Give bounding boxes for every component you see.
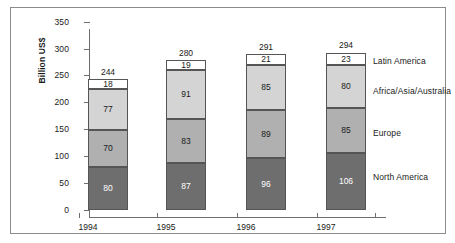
bar-total-1994: 244 <box>78 67 138 77</box>
bar-total-1997: 294 <box>316 40 376 50</box>
legend-label-africa-asia-australia: Africa/Asia/Australia <box>373 86 451 96</box>
y-tick-label-300: 300 <box>29 45 69 54</box>
bar-group-1995[interactable]: 280 19 91 83 87 <box>166 8 206 210</box>
bar-segment-latin-america-1995[interactable]: 19 <box>166 60 206 70</box>
x-tick-2 <box>237 213 238 218</box>
y-tick-label-150: 150 <box>29 125 69 134</box>
bar-segment-latin-america-1997[interactable]: 23 <box>326 53 366 65</box>
x-tick-label-1994: 1994 <box>58 222 118 232</box>
bar-segment-north-america-1996[interactable]: 96 <box>246 158 286 210</box>
x-tick-3 <box>317 213 318 218</box>
y-tick-label-350: 350 <box>29 18 69 27</box>
bar-segment-africa-asia-australia-1994[interactable]: 77 <box>88 89 128 130</box>
stacked-bar-chart-figure: Billion US$ 350 300 250 200 150 100 50 0… <box>0 0 455 243</box>
bar-segment-europe-1996[interactable]: 89 <box>246 110 286 158</box>
x-tick-label-1997: 1997 <box>296 222 356 232</box>
bar-group-1996[interactable]: 291 21 85 89 96 <box>246 8 286 210</box>
bar-segment-africa-asia-australia-1997[interactable]: 80 <box>326 65 366 108</box>
chart-frame: Billion US$ 350 300 250 200 150 100 50 0… <box>10 7 446 234</box>
legend-label-europe: Europe <box>373 128 401 138</box>
legend-label-north-america: North America <box>373 172 428 182</box>
bar-segment-north-america-1995[interactable]: 87 <box>166 163 206 210</box>
bar-total-1995: 280 <box>156 48 216 58</box>
legend-label-latin-america: Latin America <box>373 56 426 66</box>
bar-segment-africa-asia-australia-1995[interactable]: 91 <box>166 70 206 119</box>
x-tick-1 <box>157 213 158 218</box>
bar-segment-europe-1994[interactable]: 70 <box>88 130 128 167</box>
y-tick-label-50: 50 <box>29 179 69 188</box>
bar-group-1994[interactable]: 244 18 77 70 80 <box>88 8 128 210</box>
bar-segment-latin-america-1996[interactable]: 21 <box>246 54 286 65</box>
bar-segment-europe-1995[interactable]: 83 <box>166 119 206 163</box>
x-tick-start <box>79 213 80 218</box>
bar-total-1996: 291 <box>236 42 296 52</box>
y-tick-label-0: 0 <box>29 206 69 215</box>
bar-segment-north-america-1997[interactable]: 106 <box>326 153 366 210</box>
bar-segment-europe-1997[interactable]: 85 <box>326 108 366 153</box>
x-tick-label-1995: 1995 <box>136 222 196 232</box>
bar-segment-north-america-1994[interactable]: 80 <box>88 167 128 210</box>
y-tick-label-250: 250 <box>29 71 69 80</box>
bar-segment-latin-america-1994[interactable]: 18 <box>88 79 128 89</box>
x-tick-label-1996: 1996 <box>216 222 276 232</box>
y-axis-title: Billion US$ <box>38 24 47 98</box>
bar-segment-africa-asia-australia-1996[interactable]: 85 <box>246 65 286 110</box>
x-tick-end <box>375 213 376 218</box>
y-tick-0 <box>84 210 90 211</box>
bar-group-1997[interactable]: 294 23 80 85 106 <box>326 8 366 210</box>
y-tick-label-100: 100 <box>29 152 69 161</box>
y-tick-label-200: 200 <box>29 98 69 107</box>
